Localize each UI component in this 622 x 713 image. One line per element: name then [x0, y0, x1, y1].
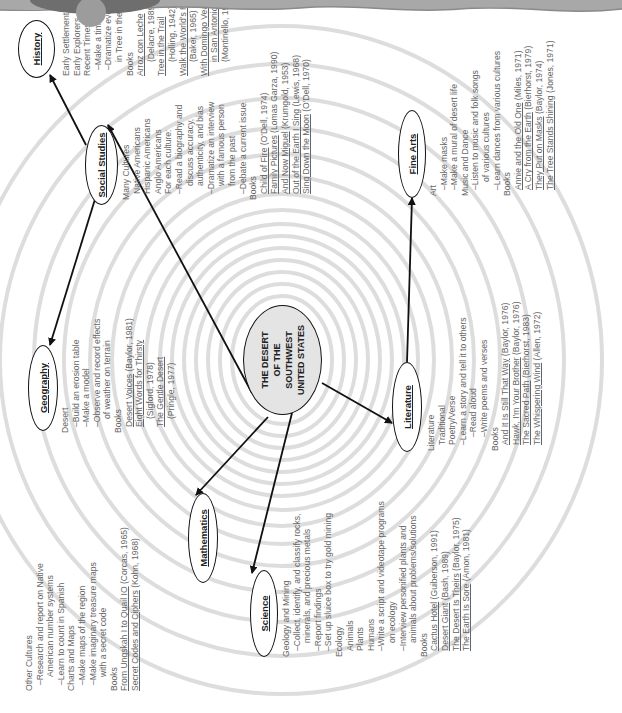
text-line: –Learn to count in Spanish	[56, 527, 67, 691]
text-line: –Build an erosion table	[71, 318, 82, 433]
text-line: Desert Giant (Bash, 1989)	[440, 501, 451, 657]
text-line: –Set up sluice box to try gold mining	[323, 501, 334, 657]
geography-text: Desert–Build an erosion table–Make a mod…	[60, 318, 177, 433]
text-line: The Whispering Wind (Allen, 1972)	[532, 301, 543, 451]
text-line: American number systems	[45, 527, 56, 691]
node-social-studies-label: Social Studies	[96, 133, 107, 198]
text-line: –Write a script and videotape programs	[376, 501, 387, 657]
text-line: on ecology	[387, 501, 398, 657]
text-line: –Learn dances from various cultures	[492, 40, 503, 196]
text-line: Music and Dance	[460, 40, 471, 196]
science-text: Geology and Mining–Collect, identify, an…	[281, 501, 472, 657]
text-line: Secret Codes and Ciphers (Kohn, 1968)	[130, 527, 141, 691]
header-band	[0, 0, 622, 30]
text-line: Books	[113, 318, 124, 433]
node-science: Science	[250, 570, 278, 657]
text-line: Books	[419, 501, 430, 657]
text-line: The Sacred Path (Bierhorst, 1983)	[521, 301, 532, 451]
center-line-3: UNITED STATES	[295, 315, 307, 405]
text-line: –Make a model	[81, 318, 92, 433]
text-line: of various cultures	[481, 40, 492, 196]
text-line: of weather on terrain	[102, 318, 113, 433]
text-line: –Make maps of the region	[77, 527, 88, 691]
text-line: –Debate a current issue	[238, 52, 249, 200]
text-line: Traditional	[437, 301, 448, 451]
text-line: And It Is Still That Way (Baylor, 1976)	[500, 301, 511, 451]
text-line: Desert	[60, 318, 71, 433]
text-line: Ecology	[334, 501, 345, 657]
text-line: And Now Miguel (Krumgold, 1953)	[280, 52, 291, 200]
center-topic-label: THE DESERT OF THE SOUTHWEST UNITED STATE…	[259, 315, 307, 405]
text-line: Eight Words for Thirsty	[134, 318, 145, 433]
node-history-label: History	[31, 33, 42, 66]
text-line: (Pringle, 1977)	[166, 318, 177, 433]
text-line: –Collect, identify, and classify rocks,	[292, 501, 303, 657]
text-line: –Listen to music and folk songs	[470, 40, 481, 196]
text-line: Child of Fire (O'Dell, 1974)	[259, 52, 270, 200]
text-line: They Put on Masks (Baylor, 1974)	[534, 40, 545, 196]
text-line: Art	[428, 40, 439, 196]
node-geography-label: Geography	[38, 363, 49, 413]
text-line: with a secret code	[98, 527, 109, 691]
text-line: Books	[490, 301, 501, 451]
node-fine-arts: Fine Arts	[398, 110, 426, 198]
text-line: Other Cultures	[24, 527, 35, 691]
fine-arts-text: Art–Make masks–Make a mural of desert li…	[428, 40, 555, 196]
text-line: The Earth Is Sore (Amon, 1981)	[461, 501, 472, 657]
text-line: Geology and Mining	[281, 501, 292, 657]
text-line: Plants	[355, 501, 366, 657]
text-line: Literature	[426, 301, 437, 451]
text-line: The Tree Stands Shining (Jones, 1971)	[545, 40, 556, 196]
text-line: –Interview personified plants and	[398, 501, 409, 657]
text-line: Sing Down the Moon (O'Dell, 1970)	[301, 52, 312, 200]
node-literature: Literature	[392, 362, 422, 452]
text-line: Out of the Earth I Sing (Lewis, 1968)	[291, 52, 302, 200]
text-line: From Ungskah I to Quail IO (Corcas, 1965…	[119, 527, 130, 691]
text-line: Cactus Hotel (Guiberson, 1991)	[429, 501, 440, 657]
text-line: The Gentle Desert	[155, 318, 166, 433]
text-line: –Make a mural of desert life	[449, 40, 460, 196]
text-line: Animals	[345, 501, 356, 657]
other-cultures-text: Other Cultures–Research and report on Na…	[24, 527, 141, 691]
text-line: Annie and the Old One (Miles, 1971)	[513, 40, 524, 196]
center-line-1: THE DESERT	[259, 315, 271, 405]
text-line: Desert Voices (Baylor, 1981)	[124, 318, 135, 433]
text-line: A Cry from the Earth (Bierhorst, 1979)	[523, 40, 534, 196]
text-line: –Observe and record effects	[92, 318, 103, 433]
text-line: Charts and Maps	[66, 527, 77, 691]
text-line: –Learn a story and tell it to others	[458, 301, 469, 451]
text-line: Books	[248, 52, 259, 200]
node-mathematics: Mathematics	[188, 493, 218, 583]
node-mathematics-label: Mathematics	[198, 509, 209, 567]
text-line: Books	[109, 527, 120, 691]
concept-web: THE DESERT OF THE SOUTHWEST UNITED STATE…	[0, 0, 622, 713]
node-fine-arts-label: Fine Arts	[407, 134, 418, 175]
text-line: –Make imaginary treasure maps	[88, 527, 99, 691]
node-social-studies: Social Studies	[85, 125, 118, 205]
text-line: (Sigford, 1978)	[145, 318, 156, 433]
node-literature-label: Literature	[402, 385, 413, 429]
text-line: –Write poems and verses	[479, 301, 490, 451]
center-line-2: OF THE SOUTHWEST	[271, 315, 295, 405]
text-line: minerals, and precious metals	[302, 501, 313, 657]
text-line: –Research and report on Native	[35, 527, 46, 691]
text-line: –Make masks	[439, 40, 450, 196]
text-line: Humans	[366, 501, 377, 657]
text-line: The Desert Is Theirs (Baylor, 1975)	[451, 501, 462, 657]
text-line: Family Pictures (Lomas Garza, 1990)	[269, 52, 280, 200]
text-line: Poetry/Verse	[447, 301, 458, 451]
center-topic-oval: THE DESERT OF THE SOUTHWEST UNITED STATE…	[243, 305, 322, 415]
text-line: animals about problems/solutions	[408, 501, 419, 657]
text-line: Books	[502, 40, 513, 196]
node-geography: Geography	[28, 345, 58, 431]
text-line: –Read aloud	[468, 301, 479, 451]
text-line: Hawk, I'm Your Brother (Baylor, 1976)	[511, 301, 522, 451]
node-science-label: Science	[259, 596, 270, 632]
text-line: –Report findings	[313, 501, 324, 657]
literature-text: LiteratureTraditionalPoetry/Verse–Learn …	[426, 301, 543, 451]
